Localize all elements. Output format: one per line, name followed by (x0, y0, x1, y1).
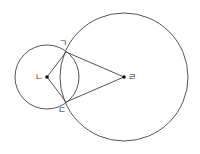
labels-group: ㄱㄴㄷㄹ (35, 38, 136, 115)
segment-0 (47, 52, 66, 77)
segment-2 (66, 52, 124, 77)
points-group (45, 75, 126, 79)
center-point-icon (45, 75, 49, 79)
point-label: ㄴ (35, 72, 43, 82)
segment-1 (47, 77, 66, 102)
point-label: ㄷ (58, 105, 66, 115)
segments-group (47, 52, 124, 102)
point-label: ㄱ (59, 38, 67, 48)
intersecting-circles-diagram: ㄱㄴㄷㄹ (0, 0, 200, 154)
point-label: ㄹ (128, 72, 136, 82)
segment-3 (66, 77, 124, 102)
center-point-icon (122, 75, 126, 79)
